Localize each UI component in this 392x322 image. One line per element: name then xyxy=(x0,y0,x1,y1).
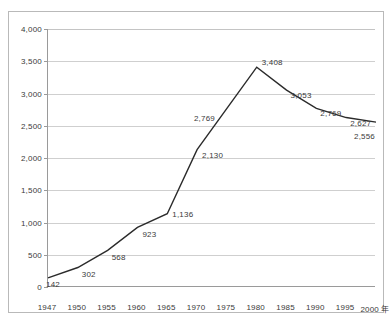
x-axis-tick-label: 1975 xyxy=(217,303,236,312)
x-axis-tick-label: 1985 xyxy=(276,303,295,312)
gridline xyxy=(48,190,375,191)
y-axis-tick xyxy=(44,61,48,62)
x-axis-tick-label: 1965 xyxy=(157,303,176,312)
x-axis-tick-label: 1980 xyxy=(246,303,265,312)
y-axis-tick xyxy=(44,158,48,159)
data-point-label: 302 xyxy=(82,270,96,279)
data-point-label: 3,053 xyxy=(291,91,312,100)
data-point-label: 2,627 xyxy=(350,119,371,128)
gridline xyxy=(48,94,375,95)
y-axis-tick-label: 500 xyxy=(28,250,42,259)
y-axis-tick xyxy=(44,190,48,191)
gridline xyxy=(48,29,375,30)
y-axis-tick-label: 2,000 xyxy=(21,154,42,163)
plot-area: 4,0003,5003,0002,5002,0001,5001,0005000 … xyxy=(47,29,375,287)
data-point-label: 2,556 xyxy=(354,132,375,141)
data-point-label: 3,408 xyxy=(262,58,283,67)
data-point-label: 142 xyxy=(46,280,60,289)
x-axis-tick-label: 1960 xyxy=(127,303,146,312)
x-axis-tick-label: 1970 xyxy=(187,303,206,312)
x-axis-tick-label: 2000 年 xyxy=(360,303,389,314)
y-axis-tick xyxy=(44,94,48,95)
x-axis-tick-label: 1995 xyxy=(336,303,355,312)
data-point-label: 2,769 xyxy=(320,109,341,118)
y-axis-tick xyxy=(44,126,48,127)
y-axis-tick xyxy=(44,29,48,30)
x-axis-tick-label: 1947 xyxy=(38,303,57,312)
y-axis-tick xyxy=(44,255,48,256)
y-axis-tick-label: 4,000 xyxy=(21,25,42,34)
chart-frame: 4,0003,5003,0002,5002,0001,5001,0005000 … xyxy=(8,11,384,313)
gridline xyxy=(48,223,375,224)
gridline xyxy=(48,61,375,62)
y-axis-tick-label: 2,500 xyxy=(21,121,42,130)
y-axis-tick xyxy=(44,223,48,224)
data-point-label: 2,769 xyxy=(194,114,215,123)
y-axis-tick-label: 3,500 xyxy=(21,57,42,66)
x-axis-tick-label: 1950 xyxy=(68,303,87,312)
x-axis-tick-label: 1990 xyxy=(306,303,325,312)
x-axis-labels: 1947195019551960196519701975198019851990… xyxy=(47,291,375,313)
y-axis-tick-label: 0 xyxy=(37,283,42,292)
y-axis-tick-label: 3,000 xyxy=(21,89,42,98)
data-point-label: 568 xyxy=(112,253,126,262)
y-axis-tick-label: 1,000 xyxy=(21,218,42,227)
data-point-label: 2,130 xyxy=(202,151,223,160)
gridline xyxy=(48,255,375,256)
x-axis-tick-label: 1955 xyxy=(97,303,116,312)
data-point-label: 1,136 xyxy=(172,210,193,219)
gridline xyxy=(48,126,375,127)
data-point-label: 923 xyxy=(142,230,156,239)
series-polyline xyxy=(48,67,376,278)
y-axis-tick-label: 1,500 xyxy=(21,186,42,195)
